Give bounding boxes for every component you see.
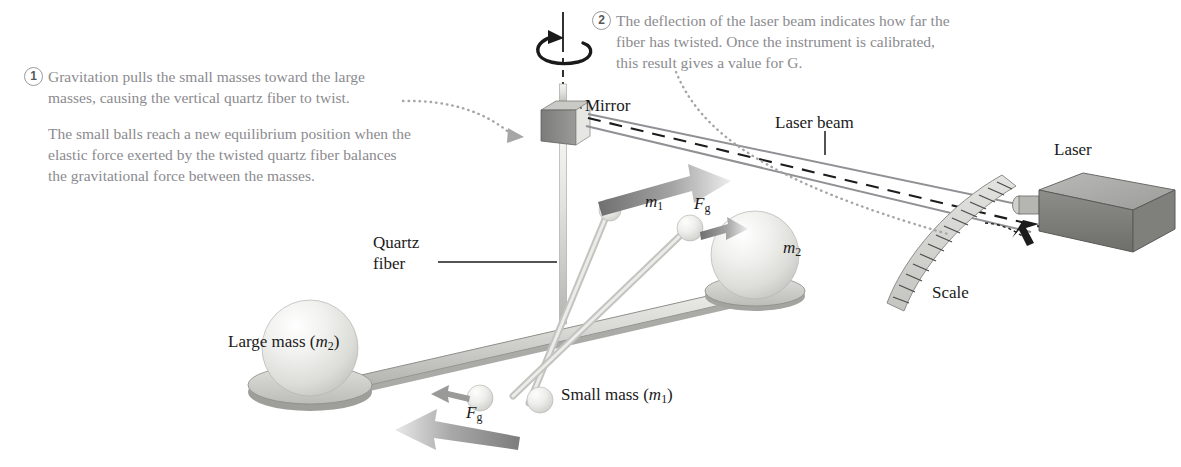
label-laser: Laser: [1054, 140, 1092, 160]
callout-2-number: 2: [592, 11, 611, 30]
callout-1-text: Gravitation pulls the small masses towar…: [24, 66, 416, 108]
small-ball-lower-right: [527, 387, 553, 413]
dotted-leader-callout-1: [403, 101, 524, 143]
small-ball-m1: [677, 215, 703, 241]
mirror-block: [541, 101, 590, 145]
label-fg-bottom: Fg: [466, 403, 482, 424]
force-arrow-top: [598, 164, 731, 216]
label-small-mass: Small mass (m1): [561, 385, 673, 406]
label-fg-top: Fg: [694, 194, 710, 215]
label-mirror: Mirror: [585, 96, 630, 116]
dotted-leader-callout-2: [676, 72, 948, 234]
label-laser-beam: Laser beam: [775, 113, 854, 133]
label-large-mass-text: Large mass (m2): [228, 332, 339, 351]
physics-diagram-figure: 1 Gravitation pulls the small masses tow…: [0, 0, 1181, 467]
callout-1: 1 Gravitation pulls the small masses tow…: [24, 66, 416, 186]
force-arrow-bottom: [395, 409, 520, 450]
label-m1: m1: [645, 192, 663, 213]
rotation-arrow-icon: [538, 12, 591, 84]
callout-2-text: The deflection of the laser beam indicat…: [592, 10, 952, 73]
callout-2: 2 The deflection of the laser beam indic…: [592, 10, 952, 73]
label-large-mass: Large mass (m2): [228, 332, 339, 353]
callout-1-number: 1: [24, 67, 43, 86]
label-quartz-fiber-line1: Quartz: [373, 233, 419, 252]
label-quartz-fiber: Quartz fiber: [373, 232, 419, 275]
large-mass-left: [248, 300, 372, 411]
callout-1-text-2: The small balls reach a new equilibrium …: [24, 123, 416, 186]
deflection-angle-marker: [985, 220, 1039, 246]
label-small-mass-text: Small mass (m1): [561, 385, 673, 404]
label-m2: m2: [783, 238, 801, 259]
large-mass-right: [705, 211, 805, 311]
label-scale: Scale: [932, 283, 969, 303]
laser-device: [1013, 173, 1176, 252]
small-force-arrow-left: [431, 385, 470, 403]
label-quartz-fiber-line2: fiber: [373, 254, 405, 273]
